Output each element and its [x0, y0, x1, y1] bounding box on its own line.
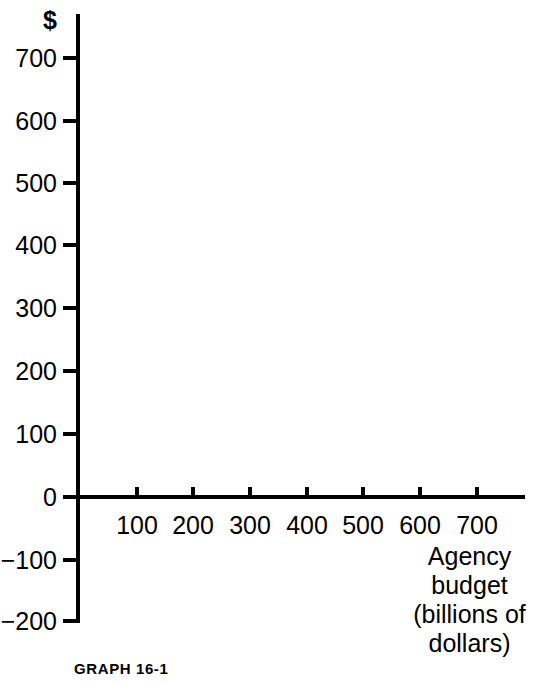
y-tick-label-neg100: −100 — [1, 548, 57, 573]
y-tick-label-500: 500 — [15, 171, 57, 196]
y-tick-label-300: 300 — [15, 296, 57, 321]
x-axis-title-line-3: (billions of — [380, 600, 559, 629]
y-tick-label-700: 700 — [15, 46, 57, 71]
x-tick-label-400: 400 — [286, 513, 328, 538]
y-tick-label-100: 100 — [15, 422, 57, 447]
y-tick-label-0: 0 — [43, 485, 57, 510]
y-tick-label-600: 600 — [15, 109, 57, 134]
x-tick-label-100: 100 — [116, 513, 158, 538]
x-axis-title-line-4: dollars) — [380, 629, 559, 658]
figure-caption: GRAPH 16-1 — [74, 660, 168, 677]
y-tick-label-neg200: −200 — [1, 609, 57, 634]
x-tick-label-700: 700 — [456, 513, 498, 538]
x-tick-label-300: 300 — [229, 513, 271, 538]
x-axis-title-line-1: Agency — [380, 542, 559, 571]
y-axis-unit-symbol: $ — [43, 8, 57, 33]
x-axis-title: Agency budget (billions of dollars) — [380, 542, 559, 658]
x-axis-title-line-2: budget — [380, 571, 559, 600]
x-tick-label-200: 200 — [172, 513, 214, 538]
graph-figure: $ 700 600 500 400 300 200 100 0 −100 −20… — [0, 0, 559, 685]
x-tick-label-500: 500 — [342, 513, 384, 538]
y-tick-label-200: 200 — [15, 359, 57, 384]
x-tick-label-600: 600 — [399, 513, 441, 538]
y-tick-label-400: 400 — [15, 233, 57, 258]
